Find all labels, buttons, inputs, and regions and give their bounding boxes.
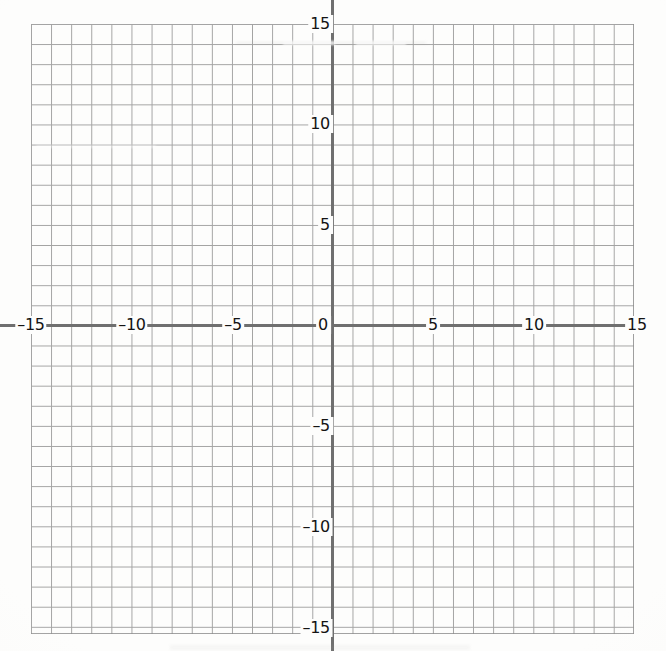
y-tick-label-15: 15 — [308, 15, 333, 33]
y-tick-label-neg15: –15 — [301, 619, 333, 637]
x-tick-label-neg15: –15 — [15, 316, 46, 334]
y-tick-label-5: 5 — [318, 216, 333, 234]
x-tick-label-neg10: –10 — [116, 316, 147, 334]
y-tick-label-neg10: –10 — [301, 518, 333, 536]
x-tick-label-15: 15 — [625, 316, 649, 334]
y-tick-label-10: 10 — [308, 115, 333, 133]
scan-artifact-bottom — [170, 645, 470, 650]
x-tick-label-5: 5 — [426, 316, 440, 334]
x-tick-label-neg5: –5 — [222, 316, 244, 334]
y-tick-label-neg5: –5 — [310, 417, 333, 435]
x-tick-label-10: 10 — [522, 316, 546, 334]
y-axis-line — [331, 0, 334, 651]
coordinate-grid-figure: –15 –10 –5 5 10 15 0 15 10 5 –5 –10 –15 — [0, 0, 666, 651]
origin-label: 0 — [316, 316, 331, 334]
